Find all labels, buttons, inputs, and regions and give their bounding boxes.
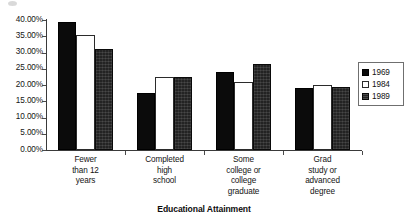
y-axis-tick-label: 20.00% (16, 81, 43, 89)
bar-1969 (295, 88, 314, 150)
x-axis-title: Educational Attainment (46, 204, 362, 214)
legend-label-1984: 1984 (372, 80, 390, 89)
y-axis-tick-mark (42, 150, 46, 151)
legend-item-1969: 1969 (362, 66, 401, 78)
legend-swatch-1969-icon (362, 69, 369, 76)
y-axis-tick-mark (42, 85, 46, 86)
y-axis-tick-label: 25.00% (16, 64, 43, 72)
legend-item-1984: 1984 (362, 78, 401, 90)
legend-swatch-1984-icon (362, 81, 369, 88)
bar-group (216, 20, 272, 150)
bar-1989 (174, 77, 193, 150)
bar-1984 (76, 35, 95, 150)
y-axis-tick-label: 30.00% (16, 48, 43, 56)
y-axis-tick-label: 40.00% (16, 16, 43, 24)
x-axis-category-label: Gradstudy oradvanceddegree (283, 155, 362, 197)
legend-swatch-1989-icon (362, 93, 369, 100)
bar-group (58, 20, 114, 150)
y-axis-tick-mark (42, 101, 46, 102)
bar-1969 (58, 22, 77, 150)
bar-1989 (332, 87, 351, 150)
y-axis-tick-mark (42, 69, 46, 70)
y-axis-tick-label: 5.00% (20, 129, 43, 137)
y-axis-tick-label: 35.00% (16, 32, 43, 40)
x-axis-tick-mark (362, 151, 363, 155)
bar-1989 (95, 49, 114, 150)
bar-chart: 0.00%5.00%10.00%15.00%20.00%25.00%30.00%… (0, 0, 408, 220)
y-axis-tick-label: 0.00% (20, 146, 43, 154)
y-axis-tick-label: 10.00% (16, 113, 43, 121)
y-axis-tick-label: 15.00% (16, 97, 43, 105)
x-axis-category-label: Fewerthan 12years (46, 155, 125, 187)
y-axis-tick-mark (42, 134, 46, 135)
y-axis-tick-mark (42, 20, 46, 21)
bar-1969 (216, 72, 235, 150)
bar-1969 (137, 93, 156, 150)
y-axis-tick-mark (42, 36, 46, 37)
bar-group (137, 20, 193, 150)
bar-1989 (253, 64, 272, 150)
bar-1984 (234, 82, 253, 150)
x-axis-category-label: Somecollege orcollegegraduate (204, 155, 283, 197)
y-axis-tick-mark (42, 53, 46, 54)
y-axis-tick-mark (42, 118, 46, 119)
legend-label-1989: 1989 (372, 92, 390, 101)
y-axis-tick-labels: 0.00%5.00%10.00%15.00%20.00%25.00%30.00%… (0, 0, 43, 220)
bar-group (295, 20, 351, 150)
chart-legend: 1969 1984 1989 (358, 62, 404, 106)
x-axis-category-label: Completedhighschool (125, 155, 204, 187)
legend-label-1969: 1969 (372, 68, 390, 77)
legend-item-1989: 1989 (362, 90, 401, 102)
plot-area (46, 20, 362, 150)
bar-1984 (155, 77, 174, 150)
bar-1984 (313, 85, 332, 150)
